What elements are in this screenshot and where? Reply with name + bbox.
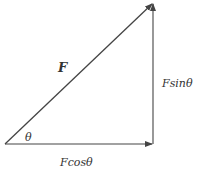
force-vector: [5, 4, 152, 144]
vector-diagram: F θ Fsinθ Fcosθ: [0, 0, 197, 176]
angle-label: θ: [25, 131, 32, 144]
vertical-component-label: Fsinθ: [161, 77, 193, 90]
horizontal-component-label: Fcosθ: [59, 156, 93, 169]
force-label: F: [57, 60, 68, 75]
